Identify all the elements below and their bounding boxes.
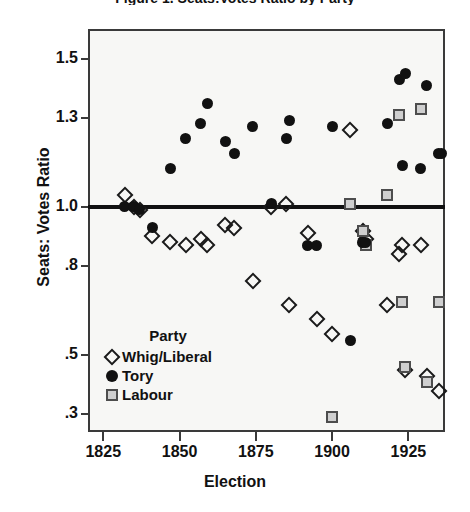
data-point-tory bbox=[202, 98, 213, 109]
legend-entry: Labour bbox=[104, 385, 226, 404]
marker-glyph bbox=[106, 389, 118, 401]
data-point-tory bbox=[360, 237, 371, 248]
data-point-labour bbox=[396, 296, 408, 308]
data-point-labour bbox=[357, 225, 369, 237]
legend-label: Whig/Liberal bbox=[122, 349, 212, 364]
y-tick-mark bbox=[81, 413, 89, 415]
data-point-labour bbox=[399, 361, 411, 373]
data-point-labour bbox=[433, 296, 445, 308]
x-tick-mark bbox=[255, 432, 257, 441]
data-point-tory bbox=[436, 148, 447, 159]
marker-glyph bbox=[104, 348, 121, 365]
legend-label: Labour bbox=[122, 387, 173, 402]
marker-glyph bbox=[106, 370, 118, 382]
legend: Party Whig/LiberalToryLabour bbox=[104, 327, 226, 404]
legend-entry: Tory bbox=[104, 366, 226, 385]
data-point-labour bbox=[344, 198, 356, 210]
x-tick-mark bbox=[179, 432, 181, 441]
data-point-labour bbox=[326, 411, 338, 423]
y-tick-label: .5 bbox=[32, 346, 78, 362]
data-point-tory bbox=[382, 118, 393, 129]
legend-entries: Whig/LiberalToryLabour bbox=[104, 347, 226, 404]
legend-entry: Whig/Liberal bbox=[104, 347, 226, 366]
data-point-tory bbox=[281, 133, 292, 144]
data-point-tory bbox=[415, 163, 426, 174]
data-point-tory bbox=[165, 163, 176, 174]
y-tick-label: 1.5 bbox=[32, 50, 78, 66]
x-tick-mark bbox=[331, 432, 333, 441]
chart-figure: Figure 1. Seats:Votes Ratio by Party 1.5… bbox=[0, 0, 470, 512]
y-tick-mark bbox=[81, 354, 89, 356]
x-tick-label: 1925 bbox=[378, 443, 438, 461]
legend-label: Tory bbox=[122, 368, 153, 383]
chart-title: Figure 1. Seats:Votes Ratio by Party bbox=[0, 0, 470, 5]
data-point-tory bbox=[266, 198, 277, 209]
x-tick-label: 1825 bbox=[73, 443, 133, 461]
x-tick-mark bbox=[407, 432, 409, 441]
y-tick-mark bbox=[81, 265, 89, 267]
y-tick-mark bbox=[81, 58, 89, 60]
x-tick-mark bbox=[102, 432, 104, 441]
data-point-tory bbox=[421, 80, 432, 91]
legend-marker-icon bbox=[104, 368, 120, 384]
y-axis-title: Seats: Votes Ratio bbox=[35, 87, 53, 347]
legend-title: Party bbox=[104, 327, 226, 344]
data-point-tory bbox=[220, 136, 231, 147]
legend-marker-icon bbox=[104, 387, 120, 403]
x-tick-label: 1850 bbox=[150, 443, 210, 461]
data-point-labour bbox=[381, 189, 393, 201]
data-point-tory bbox=[229, 148, 240, 159]
x-tick-label: 1875 bbox=[226, 443, 286, 461]
data-point-tory bbox=[147, 222, 158, 233]
y-tick-label: .3 bbox=[32, 405, 78, 421]
data-point-labour bbox=[421, 376, 433, 388]
y-tick-mark bbox=[81, 117, 89, 119]
x-axis-title: Election bbox=[0, 473, 470, 491]
data-point-tory bbox=[327, 121, 338, 132]
data-point-tory bbox=[345, 335, 356, 346]
data-point-labour bbox=[415, 103, 427, 115]
data-point-tory bbox=[400, 68, 411, 79]
legend-marker-icon bbox=[104, 349, 120, 365]
x-tick-label: 1900 bbox=[302, 443, 362, 461]
data-point-labour bbox=[393, 109, 405, 121]
data-point-tory bbox=[397, 160, 408, 171]
